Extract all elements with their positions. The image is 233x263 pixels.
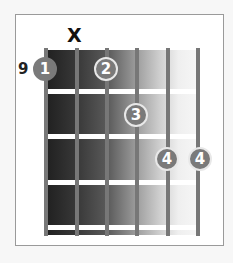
finger-label: 2 (101, 62, 111, 77)
string-5 (166, 48, 170, 236)
fret-line-4 (46, 225, 198, 230)
string-2 (75, 48, 79, 236)
finger-marker-1: 1 (33, 57, 57, 81)
string-6 (196, 48, 200, 236)
finger-label: 4 (195, 152, 205, 167)
start-fret-label: 9 (18, 62, 28, 77)
finger-label: 1 (40, 62, 50, 77)
string-4 (135, 48, 139, 236)
fret-line-1 (46, 89, 198, 94)
finger-marker-4a: 4 (155, 147, 179, 171)
fret-line-2 (46, 134, 198, 139)
finger-label: 3 (131, 108, 141, 123)
fret-line-3 (46, 180, 198, 185)
finger-marker-3: 3 (124, 103, 148, 127)
finger-label: 4 (162, 152, 172, 167)
finger-marker-2: 2 (94, 57, 118, 81)
finger-marker-4b: 4 (188, 147, 212, 171)
fretboard (46, 50, 200, 235)
muted-string-marker: X (67, 26, 82, 45)
